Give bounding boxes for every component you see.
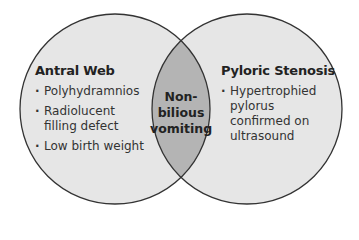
list-item: Low birth weight	[35, 139, 153, 154]
overlap-line: vomiting	[150, 121, 212, 137]
left-set-list: Polyhydramnios Radiolucent filling defec…	[35, 84, 153, 154]
overlap-label: Non- bilious vomiting	[150, 89, 212, 137]
overlap-line: Non-	[150, 89, 212, 105]
list-item: Polyhydramnios	[35, 84, 153, 99]
list-item: Radiolucent filling defect	[35, 104, 132, 134]
list-item: Hypertrophied pylorus confirmed on ultra…	[221, 84, 313, 144]
right-set-list: Hypertrophied pylorus confirmed on ultra…	[221, 84, 313, 144]
right-set: Pyloric Stenosis Hypertrophied pylorus c…	[221, 63, 335, 149]
overlap-line: bilious	[150, 105, 212, 121]
left-set-title: Antral Web	[35, 63, 153, 78]
right-set-title: Pyloric Stenosis	[221, 63, 335, 78]
left-set: Antral Web Polyhydramnios Radiolucent fi…	[35, 63, 153, 159]
